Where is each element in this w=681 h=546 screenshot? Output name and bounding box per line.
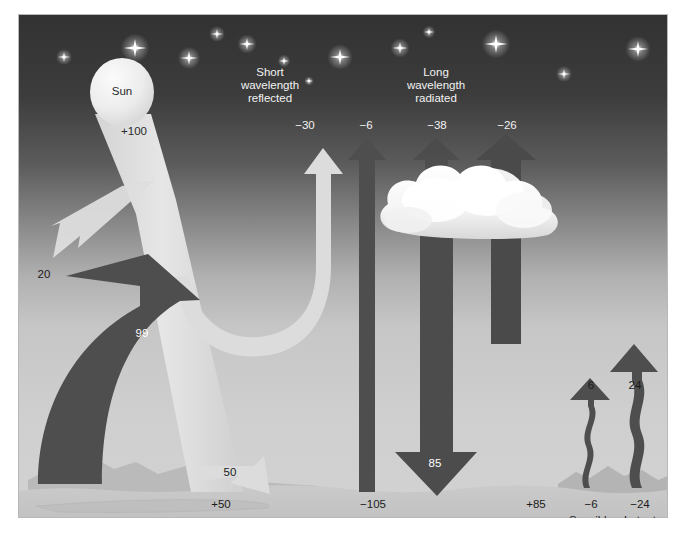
back-radiation-value-85: 85 — [429, 457, 442, 470]
surface-emission-value-99: 99 — [136, 327, 149, 340]
long-wave-space-value-26: −26 — [497, 119, 517, 132]
reflected-value: −30 — [295, 119, 315, 132]
ground-short-wavelength-name: Short wavelength — [177, 517, 266, 518]
ground-latent-heat-value: −24 — [630, 498, 650, 511]
ground-long-wavelength-name: Long wavelength — [409, 517, 496, 518]
surface-absorbed-value-50: 50 — [224, 466, 237, 479]
sensible-heat-value-6: 6 — [588, 379, 594, 392]
scattered-value: 20 — [38, 268, 51, 281]
ground-latent-heat-name: Latent heat — [624, 514, 656, 518]
diagram-canvas: Sun +100 Short wavelength reflected −30 … — [0, 0, 681, 546]
ground-sensible-heat-value: −6 — [584, 498, 597, 511]
incoming-solar-value: +100 — [121, 125, 147, 138]
ground-long-wavelength-value: −105 — [360, 498, 386, 511]
ground-sensible-heat-name: Sensible heat — [569, 514, 613, 518]
ground-short-wavelength-value: +50 — [211, 498, 231, 511]
short-wavelength-reflected-caption: Short wavelength reflected — [241, 66, 299, 105]
ground-back-radiation-value: +85 — [526, 498, 546, 511]
long-wave-space-value-38: −38 — [427, 119, 447, 132]
radiation-budget-figure: Sun +100 Short wavelength reflected −30 … — [18, 14, 668, 518]
latent-heat-value-24: 24 — [629, 379, 642, 392]
long-wavelength-radiated-caption: Long wavelength radiated — [407, 66, 465, 105]
long-wave-space-value-6: −6 — [359, 119, 372, 132]
sun-label: Sun — [112, 85, 132, 98]
